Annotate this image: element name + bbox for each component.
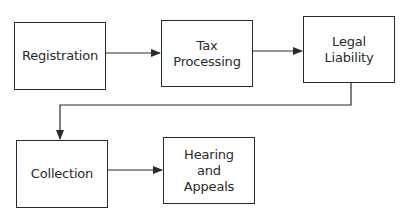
node-label: Tax Processing — [173, 38, 240, 70]
node-legal-liability: Legal Liability — [303, 16, 395, 83]
node-hearing-and-appeals: Hearing and Appeals — [163, 137, 255, 204]
node-label: Hearing and Appeals — [184, 147, 234, 195]
arrow-legal-liability-to-collection — [60, 83, 351, 139]
node-label: Registration — [22, 48, 98, 64]
node-registration: Registration — [14, 22, 106, 90]
node-label: Legal Liability — [325, 34, 374, 66]
node-collection: Collection — [16, 140, 108, 208]
node-label: Collection — [31, 166, 93, 182]
node-tax-processing: Tax Processing — [161, 20, 253, 87]
